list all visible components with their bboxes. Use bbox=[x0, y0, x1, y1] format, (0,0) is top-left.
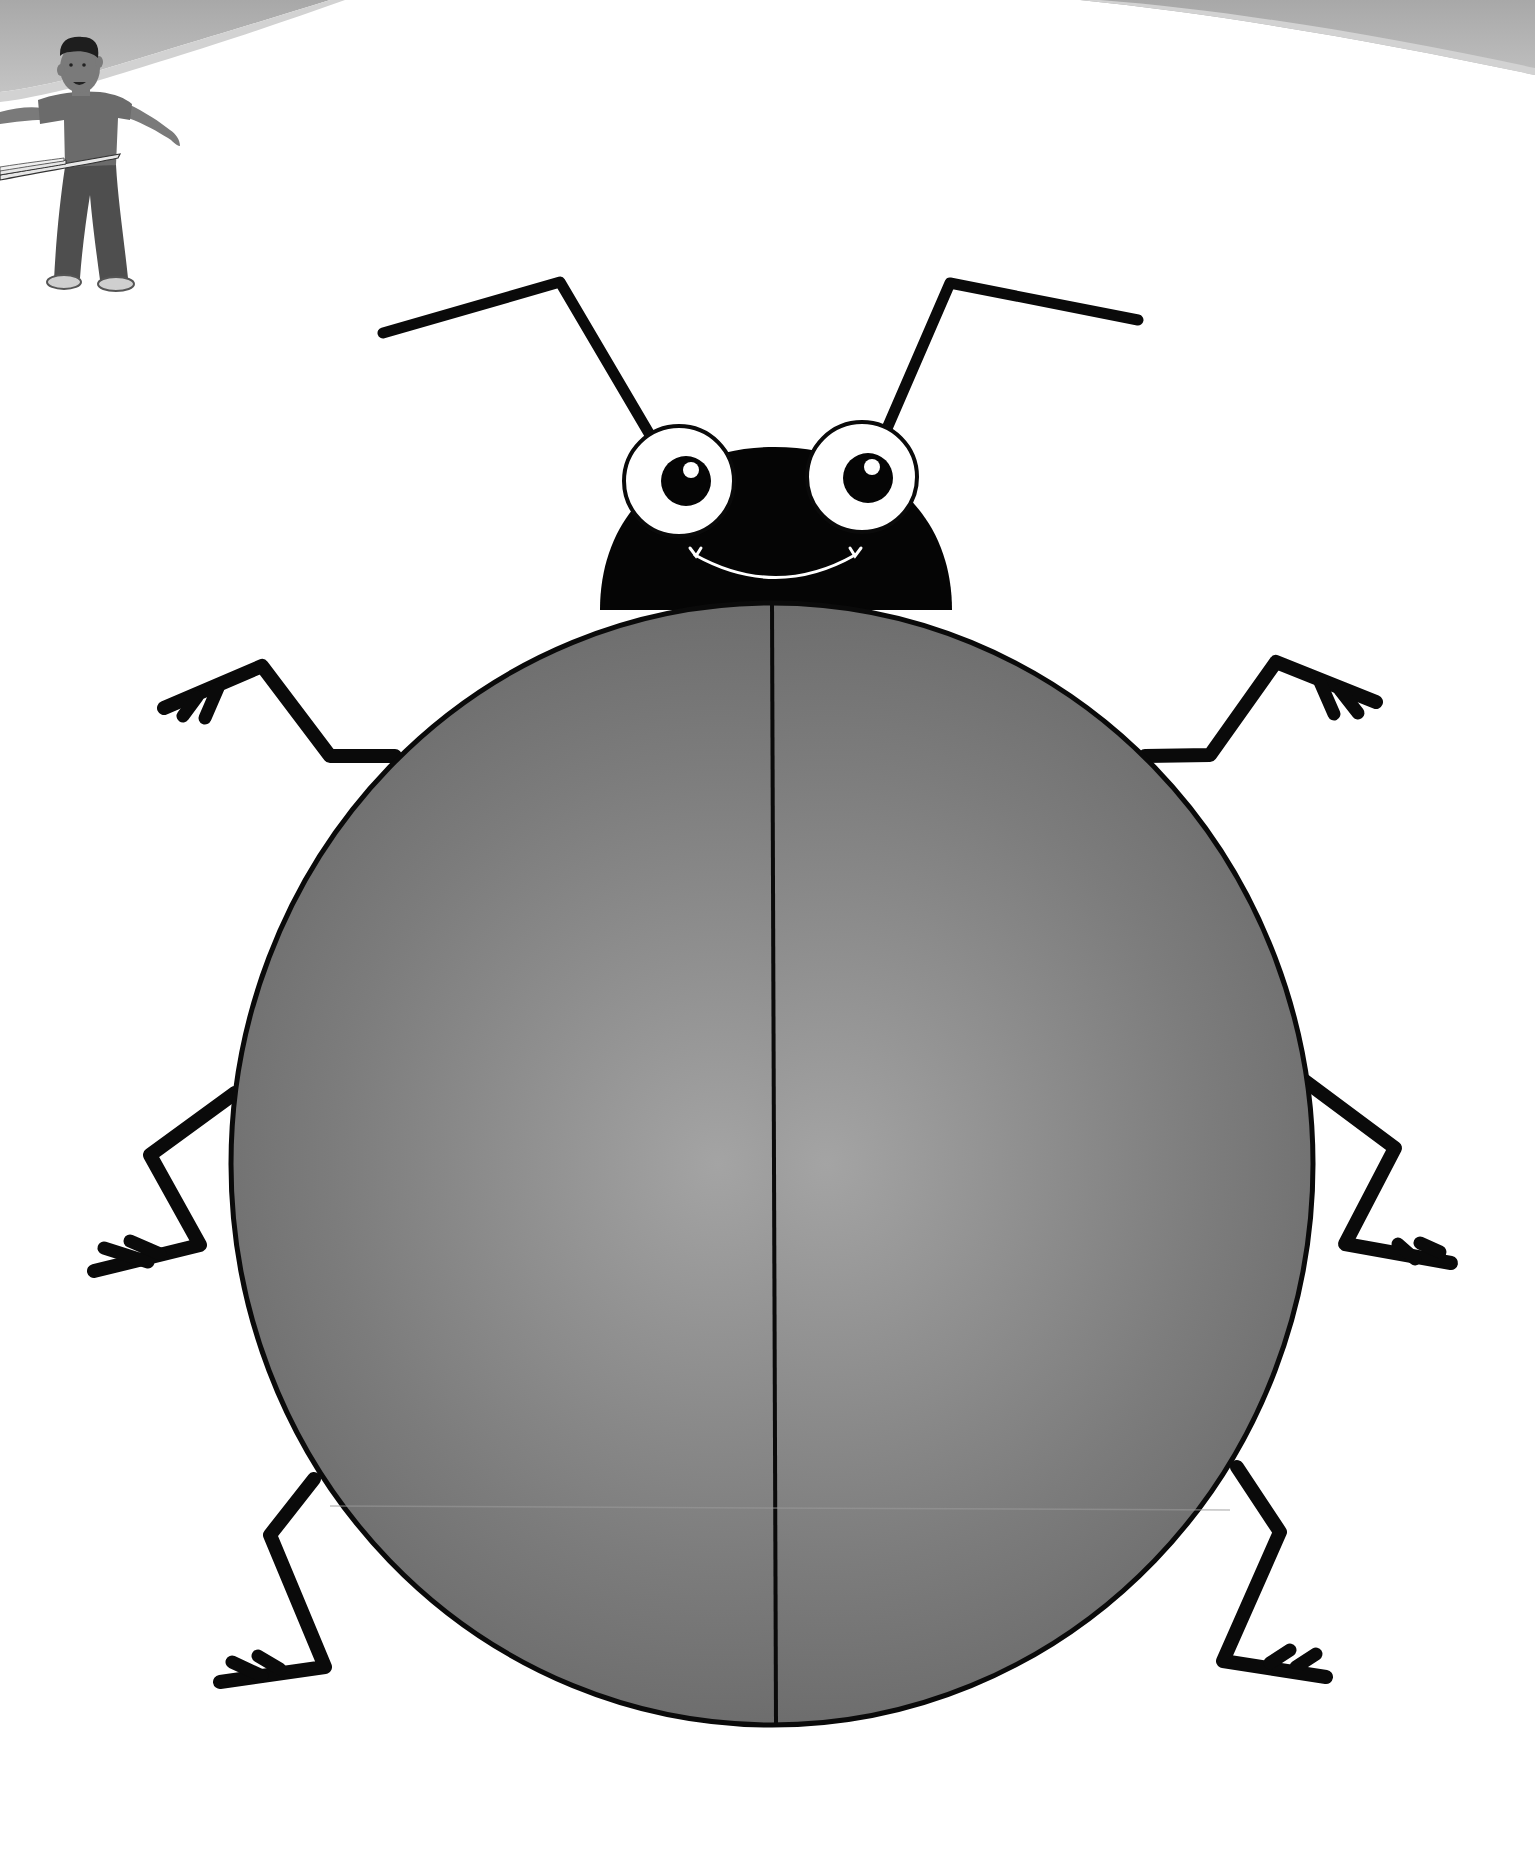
header-swoosh bbox=[0, 0, 1535, 102]
right-eye-icon bbox=[807, 422, 917, 532]
leg-middle-right bbox=[1305, 1081, 1451, 1263]
beetle-illustration bbox=[0, 0, 1535, 1864]
left-antenna bbox=[383, 282, 650, 435]
left-eye-icon bbox=[624, 426, 734, 536]
leg-lower-left bbox=[220, 1479, 325, 1682]
leg-upper-right bbox=[1145, 662, 1376, 756]
beetle-shell bbox=[231, 603, 1313, 1725]
leg-upper-left bbox=[164, 666, 395, 756]
antennae bbox=[383, 282, 1138, 440]
leg-lower-right bbox=[1223, 1467, 1326, 1677]
leg-middle-left bbox=[94, 1093, 235, 1271]
right-antenna bbox=[882, 283, 1138, 440]
coloring-page bbox=[0, 0, 1535, 1864]
